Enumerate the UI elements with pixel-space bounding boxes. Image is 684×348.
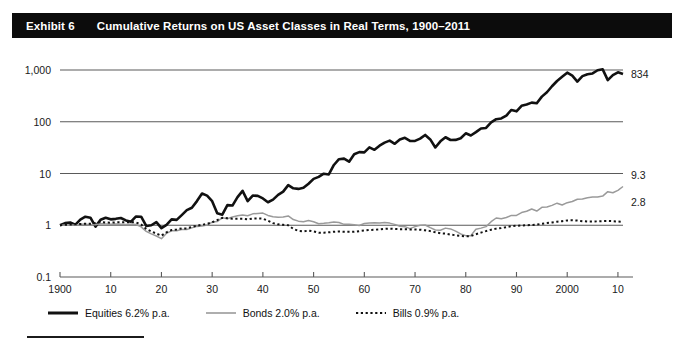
x-tick-label-40: 40: [257, 283, 269, 294]
legend-label-bonds: Bonds 2.0% p.a.: [243, 307, 320, 319]
page-title: Cumulative Returns on US Asset Classes i…: [75, 20, 470, 32]
exhibit-number-label: Exhibit 6: [12, 20, 75, 32]
bonds-line-swatch-icon: [206, 308, 236, 318]
x-tick-label-2000: 2000: [556, 283, 580, 294]
y-tick-label-100: 100: [33, 116, 51, 128]
x-tick-label-70: 70: [409, 283, 421, 294]
exhibit-header-bar: Exhibit 6 Cumulative Returns on US Asset…: [12, 13, 672, 38]
legend-item-bonds: Bonds 2.0% p.a.: [206, 307, 320, 319]
end-value-label-equities: 834: [631, 68, 649, 80]
x-tick-label-10: 10: [105, 283, 117, 294]
y-tick-label-0.1: 0.1: [36, 271, 51, 283]
x-axis-tick-labels: 1900102030405060708090200010: [48, 283, 624, 294]
x-tick-label-60: 60: [358, 283, 370, 294]
x-tick-label-10: 10: [612, 283, 624, 294]
chart-container: 0.11101001,000 1900102030405060708090200…: [0, 44, 684, 294]
end-value-label-bills: 2.8: [631, 196, 646, 208]
legend-label-bills: Bills 0.9% p.a.: [393, 307, 460, 319]
footer-divider-rule: [27, 336, 144, 338]
y-tick-label-1000: 1,000: [25, 64, 51, 76]
gridlines-group: [60, 70, 623, 225]
equities-line-swatch-icon: [48, 308, 78, 318]
x-axis-line-and-ticks: [60, 272, 633, 277]
series-line-equities: [60, 69, 623, 228]
x-tick-label-1900: 1900: [48, 283, 72, 294]
x-tick-label-90: 90: [511, 283, 523, 294]
y-tick-label-10: 10: [39, 168, 51, 180]
x-tick-label-30: 30: [206, 283, 218, 294]
legend-item-bills: Bills 0.9% p.a.: [356, 307, 460, 319]
x-tick-label-20: 20: [156, 283, 168, 294]
legend-item-equities: Equities 6.2% p.a.: [48, 307, 170, 319]
cumulative-returns-line-chart: 0.11101001,000 1900102030405060708090200…: [0, 44, 684, 294]
series-line-bonds: [60, 186, 623, 238]
y-tick-label-1: 1: [45, 219, 51, 231]
data-series-group: [60, 69, 623, 238]
legend-label-equities: Equities 6.2% p.a.: [85, 307, 170, 319]
end-value-label-bonds: 9.3: [631, 169, 646, 181]
y-axis-tick-labels: 0.11101001,000: [25, 64, 51, 283]
x-tick-label-50: 50: [308, 283, 320, 294]
bills-line-swatch-icon: [356, 308, 386, 318]
series-end-value-labels: 8349.32.8: [631, 68, 649, 208]
chart-legend: Equities 6.2% p.a. Bonds 2.0% p.a. Bills…: [0, 303, 684, 323]
x-tick-label-80: 80: [460, 283, 472, 294]
